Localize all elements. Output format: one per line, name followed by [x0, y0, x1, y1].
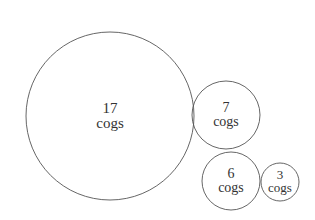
diagram-canvas: 17cogs7cogs6cogs3cogs: [0, 0, 315, 220]
cog-count: 17: [103, 100, 119, 116]
cog-count: 7: [223, 100, 230, 115]
gear-circle-17: 17cogs: [26, 32, 194, 200]
cog-unit: cogs: [213, 114, 239, 129]
gear-circles-diagram: 17cogs7cogs6cogs3cogs: [0, 0, 315, 220]
gear-circle-6: 6cogs: [202, 152, 260, 210]
cog-unit: cogs: [268, 180, 292, 195]
gear-circle-3: 3cogs: [261, 163, 299, 201]
cog-unit: cogs: [218, 180, 244, 195]
cog-unit: cogs: [96, 115, 124, 131]
cog-count: 6: [228, 166, 235, 181]
gear-circle-7: 7cogs: [192, 81, 260, 149]
